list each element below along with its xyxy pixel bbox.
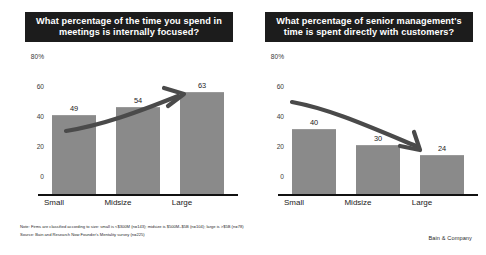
x-label-right-midsize: Midsize	[328, 198, 388, 207]
bar-left-midsize	[116, 107, 160, 194]
bar-left-large	[180, 92, 224, 194]
x-label-right-small: Small	[264, 198, 324, 207]
y-tick-right-80: 80%	[244, 53, 284, 60]
x-label-left-midsize: Midsize	[88, 198, 148, 207]
bar-left-small	[52, 115, 96, 194]
x-label-left-small: Small	[24, 198, 84, 207]
x-label-right-large: Large	[392, 198, 452, 207]
chart-title-banner-left: What percentage of the time you spend in…	[25, 12, 233, 42]
bar-right-large	[420, 155, 464, 194]
bar-slot-left-midsize: 54	[116, 66, 160, 194]
plot-area-right: 80% 60 40 20 0 40 30 24 Small	[258, 48, 480, 196]
bar-value-right-midsize: 30	[374, 134, 382, 143]
bar-right-midsize	[356, 145, 400, 194]
footnote-note: Note: Firms are classified according to …	[20, 224, 244, 230]
footnote-source: Source: Bain and Research Now Founder's …	[20, 232, 145, 238]
bar-slot-left-large: 63	[180, 66, 224, 194]
bar-value-left-midsize: 54	[134, 96, 142, 105]
x-axis-line-left	[38, 194, 238, 196]
bar-group-left: 49 54 63	[38, 66, 238, 194]
bar-value-left-large: 63	[198, 81, 206, 90]
bar-value-right-large: 24	[438, 144, 446, 153]
bain-company-logo: Bain & Company	[428, 235, 472, 241]
x-label-left-large: Large	[152, 198, 212, 207]
chart-panel-customer-time: What percentage of senior management's t…	[258, 12, 480, 210]
bar-value-left-small: 49	[70, 104, 78, 113]
chart-title-left: What percentage of the time you spend in…	[31, 16, 227, 39]
x-axis-line-right	[278, 194, 478, 196]
bar-value-right-small: 40	[310, 118, 318, 127]
y-tick-left-80: 80%	[4, 53, 44, 60]
bar-group-right: 40 30 24	[278, 66, 478, 194]
chart-panel-internal-meetings: What percentage of the time you spend in…	[18, 12, 240, 210]
chart-sheet: What percentage of the time you spend in…	[0, 0, 486, 255]
bar-slot-right-large: 24	[420, 66, 464, 194]
bar-right-small	[292, 129, 336, 194]
bar-slot-right-small: 40	[292, 66, 336, 194]
bar-slot-right-midsize: 30	[356, 66, 400, 194]
chart-title-banner-right: What percentage of senior management's t…	[265, 12, 473, 42]
bar-slot-left-small: 49	[52, 66, 96, 194]
chart-title-right: What percentage of senior management's t…	[271, 16, 467, 39]
plot-area-left: 80% 60 40 20 0 49 54 63 Small	[18, 48, 240, 196]
